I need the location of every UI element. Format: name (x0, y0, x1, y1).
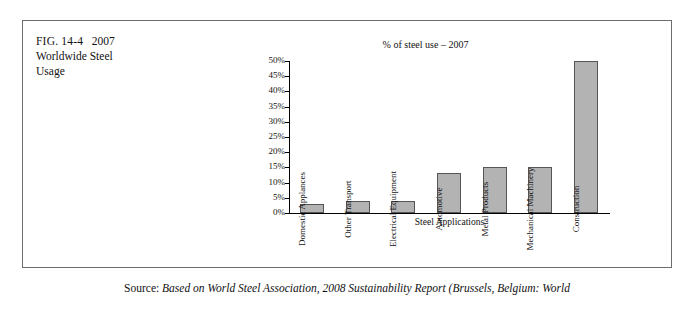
source-note: Source: Based on World Steel Association… (22, 282, 672, 294)
y-axis-tick-mark (285, 122, 289, 123)
y-axis-tick-mark (285, 76, 289, 77)
y-axis-tick-label: 10% (255, 178, 285, 187)
y-axis-tick-mark (285, 167, 289, 168)
y-axis-tick-label: 35% (255, 102, 285, 111)
bar-category-label: Other Transport (348, 180, 358, 237)
y-axis-tick-label: 15% (255, 162, 285, 171)
figure-year: 2007 (92, 35, 115, 47)
y-axis-tick-labels: 50%45%40%35%30%25%20%15%10%5%0% (251, 61, 285, 214)
y-axis-tick-label: 50% (255, 56, 285, 65)
plot-area: Domestic ApplancesOther TransportElectri… (289, 61, 609, 213)
y-axis-tick-label: 25% (255, 132, 285, 141)
y-axis-tick-mark (285, 91, 289, 92)
figure-title-line1: Worldwide Steel (36, 50, 113, 62)
chart: % of steel use – 2007 50%45%40%35%30%25%… (193, 29, 658, 261)
figure-box: FIG. 14-4 2007 Worldwide Steel Usage % o… (22, 20, 672, 268)
source-text: Based on World Steel Association, 2008 S… (162, 282, 570, 294)
y-axis-tick-label: 5% (255, 193, 285, 202)
bar-category-label: Electrical Equipment (393, 171, 403, 247)
figure-caption: FIG. 14-4 2007 Worldwide Steel Usage (36, 34, 166, 79)
y-axis-tick-mark (285, 183, 289, 184)
y-axis-tick-label: 20% (255, 147, 285, 156)
figure-number: FIG. 14-4 (36, 35, 83, 47)
y-axis-tick-mark (285, 198, 289, 199)
bar-category-label: Metal Products (485, 182, 495, 237)
x-axis-title: Steel Applications (289, 217, 610, 227)
y-axis-tick-label: 30% (255, 117, 285, 126)
y-axis-tick-label: 40% (255, 86, 285, 95)
y-axis-tick-label: 45% (255, 71, 285, 80)
figure-title-line2: Usage (36, 65, 65, 77)
y-axis-tick-mark (285, 213, 289, 214)
y-axis-tick-mark (285, 61, 289, 62)
y-axis-tick-mark (285, 152, 289, 153)
y-axis-tick-mark (285, 137, 289, 138)
bar-category-label: Mechanical Machinery (530, 167, 540, 250)
x-axis-line (289, 213, 610, 214)
source-prefix: Source: (124, 282, 159, 294)
y-axis-tick-mark (285, 107, 289, 108)
bar-category-label: Domestic Applances (302, 172, 312, 246)
chart-title: % of steel use – 2007 (193, 39, 658, 50)
y-axis-tick-label: 0% (255, 208, 285, 217)
